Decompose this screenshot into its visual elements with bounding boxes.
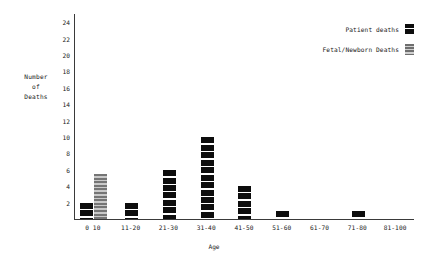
x-axis-tick-label: 41-50 [234, 224, 253, 231]
bar [80, 203, 93, 219]
bar-group [113, 14, 151, 219]
y-axis-tick-2: 2 [66, 199, 70, 206]
patient-deaths-swatch-icon [405, 24, 414, 35]
x-axis-tick-label: 0 10 [85, 224, 100, 231]
legend-item-fetal-newborn-deaths: Fetal/Newborn Deaths [322, 44, 414, 55]
bar-group [226, 14, 264, 219]
y-axis-title-line-3: Deaths [8, 92, 64, 102]
bar-group [151, 14, 189, 219]
y-axis-title-line-2: of [8, 82, 64, 92]
bar [238, 186, 251, 219]
y-axis-tick-20: 20 [63, 52, 70, 59]
bar-chart: Number of Deaths 24681012141618202224 0 … [0, 0, 428, 259]
y-axis-tick-14: 14 [63, 101, 70, 108]
x-axis-tick-labels: 0 1011-2021-3031-4041-5051-6061-7071-808… [74, 224, 414, 236]
bar [125, 203, 138, 219]
bar-group [264, 14, 302, 219]
fetal-newborn-deaths-swatch-icon [405, 44, 414, 55]
legend-item-patient-deaths: Patient deaths [345, 24, 414, 35]
legend-label-patient-deaths: Patient deaths [345, 26, 399, 33]
x-axis-tick-label: 71-80 [348, 224, 367, 231]
y-axis-tick-6: 6 [66, 166, 70, 173]
x-axis-tick-label: 31-40 [197, 224, 216, 231]
bar [352, 211, 365, 219]
bar [94, 174, 107, 219]
x-axis-tick-label: 81-100 [384, 224, 407, 231]
bar [276, 211, 289, 219]
y-axis-tick-16: 16 [63, 84, 70, 91]
y-axis-title: Number of Deaths [8, 72, 64, 102]
y-axis-tick-10: 10 [63, 134, 70, 141]
chart-legend: Patient deaths Fetal/Newborn Deaths [322, 24, 414, 55]
bar-group [188, 14, 226, 219]
y-axis-tick-24: 24 [63, 19, 70, 26]
y-axis-tick-12: 12 [63, 117, 70, 124]
y-axis-title-line-1: Number [8, 72, 64, 82]
x-axis-line [74, 219, 414, 220]
x-axis-tick-label: 21-30 [159, 224, 178, 231]
bar [163, 170, 176, 219]
x-axis-title: Age [0, 243, 428, 250]
y-axis-tick-22: 22 [63, 35, 70, 42]
bar [201, 137, 214, 219]
x-axis-tick-label: 61-70 [310, 224, 329, 231]
legend-label-fetal-newborn-deaths: Fetal/Newborn Deaths [322, 46, 399, 53]
y-axis-tick-8: 8 [66, 150, 70, 157]
y-axis-tick-18: 18 [63, 68, 70, 75]
bar-group [75, 14, 113, 219]
y-axis-tick-4: 4 [66, 183, 70, 190]
x-axis-tick-label: 51-60 [272, 224, 291, 231]
x-axis-tick-label: 11-20 [121, 224, 140, 231]
